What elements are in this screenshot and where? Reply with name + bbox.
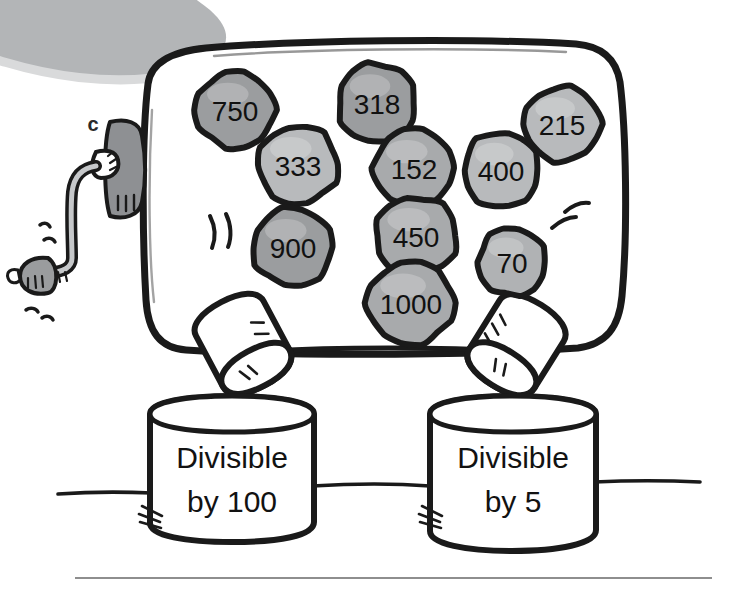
illustration-canvas: c bbox=[0, 0, 734, 593]
footer-rule-layer bbox=[0, 0, 734, 593]
